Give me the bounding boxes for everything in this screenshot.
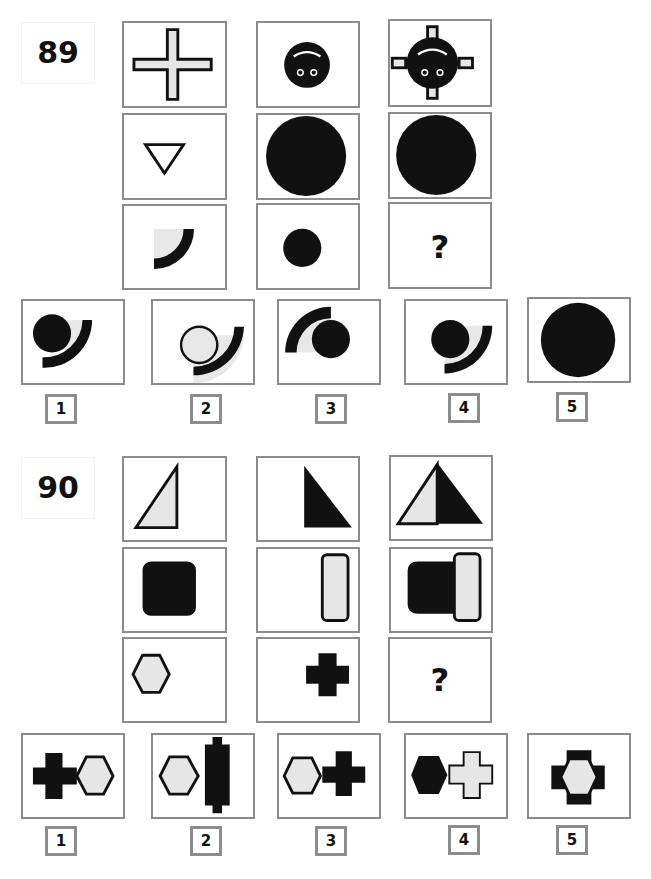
option-shape-icon [153, 735, 253, 817]
square-with-bar-icon [391, 549, 491, 631]
grid-cell-90-r2c1 [122, 547, 227, 633]
grid-cell-89-r1c2 [256, 21, 360, 108]
cross-outline-icon [124, 23, 225, 106]
option-90-3-label[interactable]: 3 [315, 826, 347, 856]
option-89-3-label[interactable]: 3 [315, 394, 347, 424]
black-face-circle-icon [258, 23, 358, 106]
option-89-4[interactable] [404, 299, 508, 385]
grid-cell-89-r2c1 [122, 113, 227, 200]
grid-cell-89-r1c1 [122, 21, 227, 108]
option-90-3[interactable] [277, 733, 381, 819]
option-89-1[interactable] [21, 299, 125, 385]
light-rounded-bar-icon [258, 549, 358, 631]
black-plus-icon [258, 639, 358, 721]
small-black-circle-icon [258, 205, 358, 288]
grid-cell-89-r1c3 [388, 19, 492, 107]
option-shape-icon [529, 735, 629, 817]
option-shape-icon [406, 735, 506, 817]
option-89-5[interactable] [527, 297, 631, 383]
option-shape-icon [153, 301, 253, 383]
option-shape-icon [23, 301, 123, 383]
option-90-1-label[interactable]: 1 [45, 826, 77, 856]
grid-cell-90-missing: ? [388, 637, 492, 723]
option-shape-icon [279, 735, 379, 817]
option-90-1[interactable] [21, 733, 125, 819]
face-with-cross-arms-icon [390, 21, 490, 105]
question-mark-icon: ? [390, 639, 490, 721]
large-black-circle-icon [390, 114, 490, 197]
grid-cell-89-r3c1 [122, 204, 227, 290]
black-rounded-square-icon [124, 549, 225, 631]
grid-cell-89-r2c3 [388, 112, 492, 199]
grid-cell-90-r1c2 [256, 456, 360, 542]
question-mark-icon: ? [390, 204, 490, 287]
light-hexagon-icon [124, 639, 225, 721]
puzzle-number: 90 [21, 457, 95, 519]
option-shape-icon [406, 301, 506, 383]
quarter-arc-icon [124, 206, 225, 288]
option-89-4-label[interactable]: 4 [448, 393, 480, 423]
option-90-2[interactable] [151, 733, 255, 819]
grid-cell-90-r1c3 [389, 455, 493, 541]
svg-text:?: ? [431, 228, 450, 266]
grid-cell-89-missing: ? [388, 202, 492, 289]
option-90-4-label[interactable]: 4 [448, 825, 480, 855]
grid-cell-90-r3c2 [256, 637, 360, 723]
grid-cell-90-r1c1 [122, 456, 227, 542]
option-89-3[interactable] [277, 299, 381, 385]
option-90-4[interactable] [404, 733, 508, 819]
combined-triangle-icon [391, 457, 491, 539]
grid-cell-89-r2c2 [256, 113, 360, 200]
grid-cell-90-r2c2 [256, 547, 360, 633]
large-black-circle-icon [258, 115, 358, 198]
triangle-down-outline-icon [124, 115, 225, 198]
option-89-1-label[interactable]: 1 [45, 394, 77, 424]
option-shape-icon [279, 301, 379, 383]
option-shape-icon [23, 735, 123, 817]
option-89-5-label[interactable]: 5 [556, 392, 588, 422]
option-90-5[interactable] [527, 733, 631, 819]
option-89-2-label[interactable]: 2 [190, 394, 222, 424]
option-shape-icon [529, 299, 629, 381]
light-right-triangle-icon [124, 458, 225, 540]
option-89-2[interactable] [151, 299, 255, 385]
option-90-5-label[interactable]: 5 [556, 825, 588, 855]
svg-text:?: ? [431, 661, 450, 699]
grid-cell-90-r2c3 [389, 547, 493, 633]
puzzle-number: 89 [21, 22, 95, 84]
grid-cell-90-r3c1 [122, 637, 227, 723]
option-90-2-label[interactable]: 2 [190, 826, 222, 856]
grid-cell-89-r3c2 [256, 203, 360, 290]
black-right-triangle-icon [258, 458, 358, 540]
